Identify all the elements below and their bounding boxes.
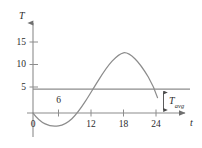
x-tick-label-18: 18: [114, 120, 134, 130]
y-axis-label: T: [19, 11, 25, 21]
y-tick-label-10: 10: [8, 60, 26, 70]
t-avg-label-subscript: avg: [175, 102, 184, 109]
x-tick-label-12: 12: [81, 120, 101, 130]
t-avg-label-base: T: [169, 95, 175, 106]
temperature-graph-figure: T t 15 10 5 0 6 12 18 24 Tavg: [0, 0, 202, 148]
x-tick-label-6: 6: [49, 96, 69, 106]
y-tick-label-15: 15: [8, 38, 26, 48]
t-avg-label: Tavg: [169, 96, 184, 109]
x-tick-label-0: 0: [23, 120, 43, 130]
x-tick-label-24: 24: [146, 120, 166, 130]
y-tick-label-5: 5: [8, 83, 26, 93]
x-axis-label: t: [190, 118, 193, 128]
